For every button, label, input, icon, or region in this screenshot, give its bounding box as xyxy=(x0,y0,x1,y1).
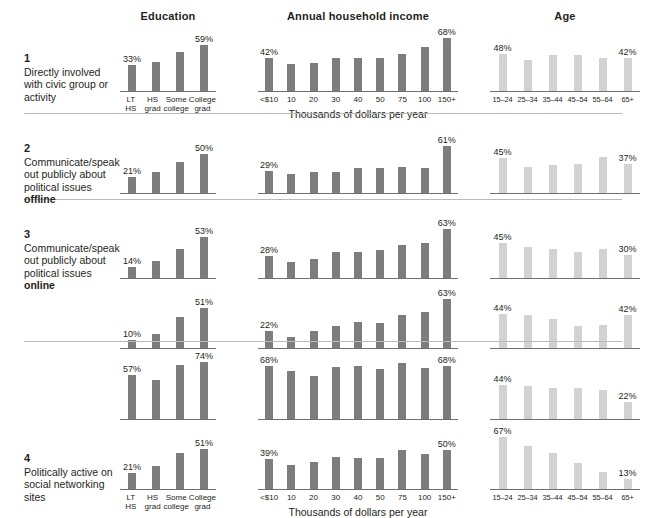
bar[interactable] xyxy=(624,164,632,193)
bar-cell[interactable] xyxy=(540,287,565,348)
bar[interactable] xyxy=(128,177,136,193)
bar-cell[interactable]: 59% xyxy=(192,30,216,91)
bar[interactable] xyxy=(128,473,136,489)
bar[interactable] xyxy=(354,168,362,193)
bar[interactable] xyxy=(376,369,384,419)
bar-cell[interactable] xyxy=(347,217,369,278)
bar-cell[interactable] xyxy=(590,132,615,193)
bar[interactable] xyxy=(574,388,582,419)
bar-cell[interactable] xyxy=(347,30,369,91)
bar-cell[interactable]: 45% xyxy=(490,132,515,193)
bar[interactable] xyxy=(152,172,160,193)
bar[interactable] xyxy=(354,458,362,489)
bar-cell[interactable]: 51% xyxy=(192,287,216,348)
bar[interactable] xyxy=(128,65,136,91)
bar[interactable] xyxy=(287,64,295,91)
bar-cell[interactable] xyxy=(144,217,168,278)
bar-cell[interactable] xyxy=(168,217,192,278)
bar-cell[interactable] xyxy=(144,132,168,193)
bar[interactable] xyxy=(376,58,384,91)
bar-cell[interactable] xyxy=(414,30,436,91)
bar-cell[interactable] xyxy=(325,287,347,348)
bar-cell[interactable] xyxy=(302,217,324,278)
bar[interactable] xyxy=(524,60,532,91)
bar[interactable] xyxy=(152,466,160,489)
bar[interactable] xyxy=(200,237,208,278)
bar[interactable] xyxy=(599,249,607,278)
bar-cell[interactable]: 74% xyxy=(192,358,216,419)
bar[interactable] xyxy=(265,256,273,278)
bar[interactable] xyxy=(499,243,507,278)
bar-cell[interactable]: 21% xyxy=(120,132,144,193)
bar-cell[interactable]: 33% xyxy=(120,30,144,91)
bar-cell[interactable] xyxy=(369,132,391,193)
bar[interactable] xyxy=(624,479,632,489)
bar[interactable] xyxy=(599,472,607,489)
bar[interactable] xyxy=(574,326,582,348)
bar[interactable] xyxy=(599,390,607,419)
bar-cell[interactable]: 44% xyxy=(490,358,515,419)
bar-cell[interactable]: 45% xyxy=(490,217,515,278)
bar[interactable] xyxy=(624,315,632,348)
bar[interactable] xyxy=(287,371,295,419)
bar[interactable] xyxy=(624,402,632,419)
bar[interactable] xyxy=(310,172,318,193)
bar-cell[interactable]: 44% xyxy=(490,287,515,348)
bar[interactable] xyxy=(398,450,406,489)
bar-cell[interactable] xyxy=(369,30,391,91)
bar-cell[interactable]: 48% xyxy=(490,30,515,91)
bar[interactable] xyxy=(376,250,384,278)
bar[interactable] xyxy=(421,454,429,489)
bar[interactable] xyxy=(287,337,295,348)
bar-cell[interactable] xyxy=(347,287,369,348)
bar[interactable] xyxy=(176,453,184,489)
bar-cell[interactable] xyxy=(540,217,565,278)
bar[interactable] xyxy=(354,252,362,278)
bar-cell[interactable]: 28% xyxy=(258,217,280,278)
bar-cell[interactable] xyxy=(540,358,565,419)
bar[interactable] xyxy=(499,314,507,348)
bar-cell[interactable]: 57% xyxy=(120,358,144,419)
bar-cell[interactable] xyxy=(168,358,192,419)
bar-cell[interactable]: 42% xyxy=(615,287,640,348)
bar-cell[interactable]: 10% xyxy=(120,287,144,348)
bar[interactable] xyxy=(398,245,406,278)
bar[interactable] xyxy=(310,259,318,278)
bar-cell[interactable]: 39% xyxy=(258,428,280,489)
bar-cell[interactable]: 30% xyxy=(615,217,640,278)
bar[interactable] xyxy=(524,315,532,348)
bar[interactable] xyxy=(332,252,340,278)
bar[interactable] xyxy=(310,462,318,489)
bar-cell[interactable]: 63% xyxy=(436,287,458,348)
bar-cell[interactable]: 42% xyxy=(615,30,640,91)
bar[interactable] xyxy=(524,167,532,193)
bar[interactable] xyxy=(287,262,295,278)
bar[interactable] xyxy=(265,366,273,419)
bar-cell[interactable] xyxy=(369,287,391,348)
bar-cell[interactable]: 53% xyxy=(192,217,216,278)
bar[interactable] xyxy=(398,54,406,91)
bar-cell[interactable] xyxy=(325,30,347,91)
bar-cell[interactable] xyxy=(325,132,347,193)
bar[interactable] xyxy=(443,146,451,193)
bar[interactable] xyxy=(354,58,362,91)
bar[interactable] xyxy=(443,366,451,419)
bar-cell[interactable] xyxy=(391,217,413,278)
bar-cell[interactable] xyxy=(515,30,540,91)
bar[interactable] xyxy=(354,366,362,419)
bar-cell[interactable]: 22% xyxy=(615,358,640,419)
bar[interactable] xyxy=(524,386,532,419)
bar-cell[interactable] xyxy=(347,132,369,193)
bar-cell[interactable] xyxy=(144,287,168,348)
bar-cell[interactable] xyxy=(515,132,540,193)
bar[interactable] xyxy=(499,54,507,91)
bar[interactable] xyxy=(549,319,557,348)
bar-cell[interactable] xyxy=(515,428,540,489)
bar[interactable] xyxy=(176,317,184,348)
bar-cell[interactable] xyxy=(280,132,302,193)
bar[interactable] xyxy=(354,322,362,348)
bar-cell[interactable] xyxy=(280,287,302,348)
bar-cell[interactable] xyxy=(590,287,615,348)
bar-cell[interactable] xyxy=(565,287,590,348)
bar-cell[interactable] xyxy=(168,287,192,348)
